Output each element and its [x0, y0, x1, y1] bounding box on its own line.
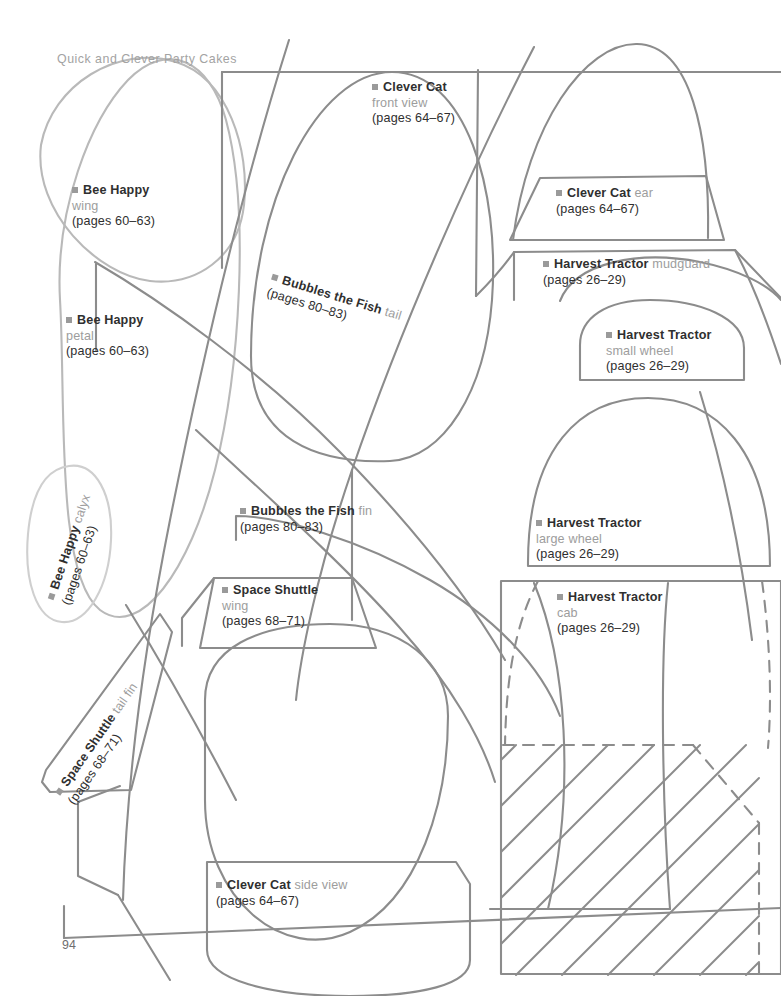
- bullet-square-icon: [543, 261, 549, 267]
- label-clever-cat-ear: Clever Cat ear (pages 64–67): [556, 186, 653, 217]
- rule-diagonal-c: [476, 252, 514, 296]
- label-title: Bubbles the Fish: [251, 504, 355, 518]
- label-part: large wheel: [536, 532, 602, 546]
- bullet-square-icon: [536, 520, 542, 526]
- rule-mid-horizontal: [64, 908, 781, 938]
- label-pages: (pages 60–63): [66, 344, 149, 360]
- label-pages: (pages 26–29): [536, 547, 642, 563]
- page-number: 94: [62, 938, 76, 952]
- label-title: Bee Happy: [77, 313, 143, 327]
- shape-cab-dash-right: [762, 581, 770, 748]
- label-part: small wheel: [606, 344, 673, 358]
- label-pages: (pages 26–29): [606, 359, 712, 375]
- label-title: Bee Happy: [83, 183, 149, 197]
- label-bee-happy-petal: Bee Happy petal (pages 60–63): [66, 313, 149, 360]
- label-title: Clever Cat: [227, 878, 291, 892]
- shape-lower-left-outline-2: [118, 895, 170, 980]
- bullet-square-icon: [271, 274, 278, 281]
- label-harvest-tractor-large-wheel: Harvest Tractor large wheel (pages 26–29…: [536, 516, 642, 563]
- shape-space-shuttle-wing-2: [182, 578, 214, 646]
- label-title: Clever Cat: [567, 186, 631, 200]
- label-pages: (pages 64–67): [216, 894, 348, 910]
- label-bubbles-the-fish-fin: Bubbles the Fish fin (pages 80–83): [240, 504, 372, 535]
- label-space-shuttle-wing: Space Shuttle wing (pages 68–71): [222, 583, 318, 630]
- label-bee-happy-wing: Bee Happy wing (pages 60–63): [72, 183, 155, 230]
- shape-bubbles-the-fish-tail-4: [296, 47, 534, 700]
- label-harvest-tractor-small-wheel: Harvest Tractor small wheel (pages 26–29…: [606, 328, 712, 375]
- label-part: mudguard: [652, 257, 710, 271]
- shape-cab-hatching: [501, 745, 759, 975]
- label-clever-cat-front-view: Clever Cat front view (pages 64–67): [372, 80, 455, 127]
- bullet-square-icon: [216, 882, 222, 888]
- label-title: Harvest Tractor: [547, 516, 642, 530]
- shape-harvest-tractor-cab-box: [501, 581, 781, 974]
- bullet-square-icon: [556, 190, 562, 196]
- bullet-square-icon: [372, 84, 378, 90]
- label-title: Harvest Tractor: [554, 257, 649, 271]
- label-part: cab: [557, 606, 578, 620]
- bullet-square-icon: [240, 508, 246, 514]
- bullet-square-icon: [72, 187, 78, 193]
- label-part: wing: [222, 599, 249, 613]
- label-pages: (pages 26–29): [543, 273, 710, 289]
- label-pages: (pages 60–63): [72, 214, 155, 230]
- label-title: Clever Cat: [383, 80, 447, 94]
- bullet-square-icon: [222, 587, 228, 593]
- bullet-square-icon: [557, 594, 563, 600]
- label-part: side view: [294, 878, 347, 892]
- template-page: Quick and Clever Party Cakes 94 Clever C…: [0, 0, 781, 996]
- book-title: Quick and Clever Party Cakes: [57, 52, 237, 66]
- label-part: ear: [634, 186, 653, 200]
- label-part: fin: [359, 504, 373, 518]
- rule-diagonal-b: [476, 70, 478, 296]
- shape-lower-left-outline: [78, 786, 120, 895]
- shape-cab-dash-left: [505, 581, 538, 745]
- label-pages: (pages 80–83): [240, 520, 372, 536]
- label-clever-cat-side-view: Clever Cat side view (pages 64–67): [216, 878, 348, 909]
- bullet-square-icon: [66, 317, 72, 323]
- label-part: petal: [66, 329, 94, 343]
- label-title: Harvest Tractor: [617, 328, 712, 342]
- label-part: front view: [372, 96, 427, 110]
- label-pages: (pages 64–67): [556, 202, 653, 218]
- label-title: Harvest Tractor: [568, 590, 663, 604]
- shape-right-edge-arc: [735, 250, 781, 364]
- label-harvest-tractor-mudguard: Harvest Tractor mudguard (pages 26–29): [543, 257, 710, 288]
- label-pages: (pages 26–29): [557, 621, 663, 637]
- template-artwork: [0, 0, 781, 996]
- label-pages: (pages 68–71): [222, 614, 318, 630]
- label-pages: (pages 64–67): [372, 111, 455, 127]
- bullet-square-icon: [606, 332, 612, 338]
- label-harvest-tractor-cab: Harvest Tractor cab (pages 26–29): [557, 590, 663, 637]
- label-title: Space Shuttle: [233, 583, 318, 597]
- label-part: wing: [72, 199, 99, 213]
